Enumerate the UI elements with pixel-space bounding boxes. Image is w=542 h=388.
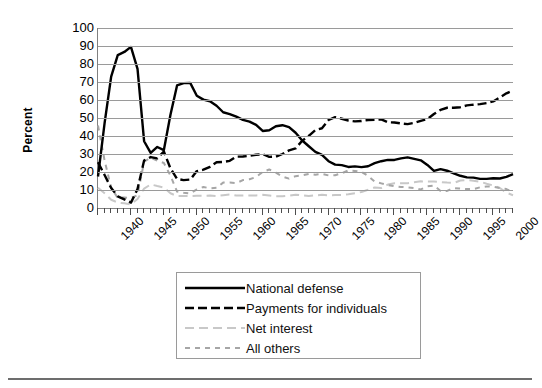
x-tick-label: 1975 xyxy=(348,214,377,243)
x-tick-label: 1940 xyxy=(118,214,147,243)
x-tick-mark xyxy=(380,208,381,213)
x-tick-mark xyxy=(479,208,480,213)
gridline xyxy=(98,136,513,137)
legend-swatch-dashed-black-line xyxy=(184,301,246,315)
x-tick-mark xyxy=(156,208,157,213)
legend-item: Net interest xyxy=(177,318,420,338)
x-tick-mark xyxy=(321,208,322,213)
x-tick-mark xyxy=(209,208,210,213)
x-tick-mark xyxy=(242,208,243,213)
x-tick-mark xyxy=(512,208,513,213)
x-tick-mark xyxy=(189,208,190,213)
x-tick-mark xyxy=(347,208,348,213)
x-tick-mark xyxy=(235,208,236,213)
bottom-divider xyxy=(8,378,532,380)
x-tick-mark xyxy=(505,208,506,213)
x-tick-label: 1995 xyxy=(480,214,509,243)
y-tick-label: 40 xyxy=(50,129,94,142)
gridline xyxy=(98,64,513,65)
gridline xyxy=(98,82,513,83)
x-tick-mark xyxy=(281,208,282,213)
x-tick-mark xyxy=(150,208,151,213)
x-tick-label: 1990 xyxy=(447,214,476,243)
y-tick-label: 70 xyxy=(50,75,94,88)
x-tick-mark xyxy=(268,208,269,213)
y-tick-label: 100 xyxy=(50,21,94,34)
x-tick-mark xyxy=(453,208,454,213)
x-tick-mark xyxy=(367,208,368,213)
x-tick-mark xyxy=(466,208,467,213)
x-tick-mark xyxy=(301,208,302,213)
legend-label: Payments for individuals xyxy=(246,302,387,315)
x-tick-mark xyxy=(314,208,315,213)
legend-label: National defense xyxy=(246,282,344,295)
x-tick-label: 1955 xyxy=(217,214,246,243)
x-tick-mark xyxy=(137,208,138,213)
x-tick-mark xyxy=(354,208,355,213)
legend-item: National defense xyxy=(177,278,420,298)
x-tick-label: 1945 xyxy=(151,214,180,243)
x-tick-mark xyxy=(374,208,375,213)
x-tick-mark xyxy=(104,208,105,213)
x-tick-mark xyxy=(413,208,414,213)
series-line xyxy=(98,47,513,179)
plot-area xyxy=(97,28,513,209)
x-tick-mark xyxy=(446,208,447,213)
y-tick-label: 90 xyxy=(50,39,94,52)
gridline xyxy=(98,172,513,173)
legend-label: All others xyxy=(246,342,300,355)
x-tick-mark xyxy=(407,208,408,213)
legend-swatch-dashed-lightgray-line xyxy=(184,321,246,335)
x-tick-label: 1950 xyxy=(184,214,213,243)
x-tick-mark xyxy=(288,208,289,213)
gridline xyxy=(98,190,513,191)
gridline xyxy=(98,46,513,47)
legend-item: All others xyxy=(177,338,420,358)
x-tick-mark xyxy=(143,208,144,213)
y-tick-label: 30 xyxy=(50,147,94,160)
x-tick-label: 1970 xyxy=(315,214,344,243)
x-tick-mark xyxy=(308,208,309,213)
x-tick-mark xyxy=(255,208,256,213)
x-tick-mark xyxy=(202,208,203,213)
x-tick-mark xyxy=(433,208,434,213)
y-tick-label: 0 xyxy=(50,201,94,214)
x-tick-mark xyxy=(341,208,342,213)
x-tick-mark xyxy=(123,208,124,213)
gridline xyxy=(98,28,513,29)
legend-item: Payments for individuals xyxy=(177,298,420,318)
x-tick-mark xyxy=(183,208,184,213)
y-tick-label: 50 xyxy=(50,111,94,124)
legend-swatch-solid-black-line xyxy=(184,281,246,295)
x-tick-label: 1965 xyxy=(282,214,311,243)
x-tick-mark xyxy=(440,208,441,213)
x-tick-mark xyxy=(249,208,250,213)
x-tick-mark xyxy=(420,208,421,213)
x-tick-mark xyxy=(472,208,473,213)
x-tick-mark xyxy=(176,208,177,213)
y-tick-label: 10 xyxy=(50,183,94,196)
x-tick-mark xyxy=(387,208,388,213)
y-tick-label: 60 xyxy=(50,93,94,106)
chart-legend: National defensePayments for individuals… xyxy=(176,272,421,359)
x-tick-mark xyxy=(275,208,276,213)
x-tick-mark xyxy=(169,208,170,213)
x-tick-mark xyxy=(222,208,223,213)
x-tick-mark xyxy=(110,208,111,213)
x-tick-mark xyxy=(499,208,500,213)
y-axis-title: Percent xyxy=(18,84,38,176)
x-tick-label: 1980 xyxy=(381,214,410,243)
x-axis-tick-labels: 1940194519501955196019651970197519801985… xyxy=(0,214,538,270)
y-tick-label: 20 xyxy=(50,165,94,178)
x-tick-mark xyxy=(216,208,217,213)
gridline xyxy=(98,154,513,155)
x-tick-label: 1960 xyxy=(250,214,279,243)
x-tick-mark xyxy=(486,208,487,213)
y-tick-label: 80 xyxy=(50,57,94,70)
gridline xyxy=(98,118,513,119)
x-tick-mark xyxy=(334,208,335,213)
gridline xyxy=(98,100,513,101)
legend-swatch-dotted-gray-line xyxy=(184,341,246,355)
x-tick-mark xyxy=(400,208,401,213)
